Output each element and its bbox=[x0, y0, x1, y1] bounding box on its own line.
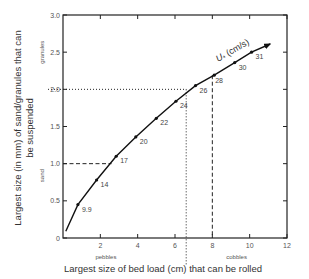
plot-frame: 2468101200.51.01.52.02.53.0 bbox=[50, 12, 291, 250]
y-tick-label: 0.5 bbox=[50, 197, 60, 204]
y-axis-title-line1: Largest size (in mm) of sand/granules th… bbox=[12, 30, 23, 225]
data-point-label: 22 bbox=[160, 119, 168, 126]
x-axis-title: Largest size of bed load (cm) that can b… bbox=[64, 263, 262, 274]
data-point bbox=[233, 61, 236, 64]
y-axis-title-line2: be suspended bbox=[24, 98, 35, 158]
data-point-label: 31 bbox=[256, 53, 264, 60]
y-tick-label: 3.0 bbox=[50, 12, 60, 19]
data-point-label: 26 bbox=[200, 87, 208, 94]
data-point-label: 30 bbox=[239, 64, 247, 71]
data-point-label: 24 bbox=[180, 102, 188, 109]
x-tick-label: 6 bbox=[173, 242, 177, 249]
data-point bbox=[250, 51, 253, 54]
y-category-granules: granules bbox=[39, 41, 45, 64]
y-tick-label: 1.0 bbox=[50, 160, 60, 167]
x-category-pebbles: pebbles bbox=[95, 254, 116, 260]
y-category-sand: sand bbox=[39, 169, 45, 182]
data-point-label: 20 bbox=[140, 138, 148, 145]
y-tick-label: 2.5 bbox=[50, 49, 60, 56]
plot-border bbox=[63, 15, 287, 238]
data-point bbox=[95, 178, 98, 181]
velocity-curve bbox=[66, 44, 270, 231]
data-point bbox=[115, 155, 118, 158]
data-point bbox=[76, 203, 79, 206]
data-point-label: 14 bbox=[101, 181, 109, 188]
data-point-label: 17 bbox=[120, 157, 128, 164]
x-tick-label: 4 bbox=[136, 242, 140, 249]
x-tick-label: 8 bbox=[210, 242, 214, 249]
chart: 2468101200.51.01.52.02.53.0 9.9141720222… bbox=[0, 0, 309, 279]
x-category-cobbles: cobbles bbox=[226, 254, 247, 260]
data-point bbox=[134, 135, 137, 138]
data-point bbox=[174, 100, 177, 103]
y-tick-label: 1.5 bbox=[50, 123, 60, 130]
data-point-label: 9.9 bbox=[82, 206, 92, 213]
x-tick-label: 2 bbox=[98, 242, 102, 249]
curve-label: U* (cm/s) bbox=[214, 37, 251, 65]
data-series-curve: 9.9141720222426283031 bbox=[66, 44, 270, 231]
y-tick-label: 0 bbox=[56, 235, 60, 242]
data-point bbox=[194, 84, 197, 87]
data-point-label: 28 bbox=[215, 77, 223, 84]
x-tick-label: 12 bbox=[283, 242, 291, 249]
x-tick-label: 10 bbox=[246, 242, 254, 249]
data-point bbox=[155, 117, 158, 120]
